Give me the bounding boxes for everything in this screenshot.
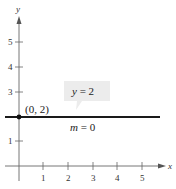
chart-canvas: y x 1 2 3 4 5 5 4 3 1 y = 2 (0, 2) m = 0: [0, 0, 176, 189]
svg-text:m = 0: m = 0: [70, 121, 96, 133]
equation-callout: y = 2: [64, 81, 110, 110]
x-tick-4: 4: [115, 173, 120, 183]
x-axis-arrow-icon: [158, 164, 166, 169]
y-tick-5: 5: [8, 37, 13, 47]
y-tick-3: 3: [8, 87, 13, 97]
point-label: (0, 2): [25, 103, 49, 116]
x-tick-5: 5: [140, 173, 145, 183]
y-axis-arrow-icon: [17, 16, 22, 24]
point-marker: [17, 115, 22, 120]
slope-var: m: [70, 121, 78, 133]
x-tick-2: 2: [66, 173, 71, 183]
svg-text:y = 2: y = 2: [71, 85, 94, 97]
y-axis-label: y: [15, 4, 20, 14]
y-tick-1: 1: [8, 136, 13, 146]
x-tick-1: 1: [41, 173, 46, 183]
slope-rest: = 0: [78, 121, 96, 133]
y-tick-4: 4: [8, 62, 13, 72]
x-axis-label: x: [167, 161, 172, 171]
x-tick-3: 3: [91, 173, 96, 183]
equation-rest: = 2: [77, 85, 94, 97]
